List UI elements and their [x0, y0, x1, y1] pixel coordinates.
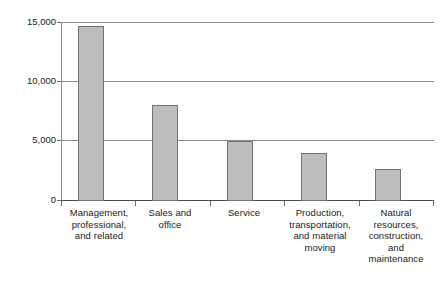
- category-label-line: and: [352, 242, 440, 254]
- category-label-natural-resources: Natural resources, construction, and mai…: [352, 207, 440, 265]
- category-label-line: Service: [207, 207, 281, 219]
- y-tick-mark-5000: [57, 140, 61, 141]
- category-label-line: resources,: [352, 219, 440, 231]
- bar-management-professional-and-related[interactable]: [78, 26, 104, 201]
- x-tick-mark: [135, 201, 136, 206]
- y-tick-mark-10000: [57, 81, 61, 82]
- bar-service[interactable]: [227, 141, 253, 201]
- x-tick-mark: [61, 201, 62, 206]
- x-tick-mark: [359, 201, 360, 206]
- x-tick-mark: [210, 201, 211, 206]
- bar-sales-and-office[interactable]: [152, 105, 178, 201]
- category-label-line: maintenance: [352, 253, 440, 265]
- y-axis-tick-label: 15,000: [0, 17, 56, 27]
- category-label-service: Service: [207, 207, 281, 219]
- y-axis-tick-label: 10,000: [0, 76, 56, 86]
- category-label-line: professional,: [55, 219, 143, 231]
- y-tick-text-5000: 5,000: [32, 134, 56, 145]
- gridline-10000: [61, 81, 434, 82]
- bar-natural-resources-construction-and-maintenance[interactable]: [375, 169, 401, 201]
- y-tick-text-0: 0: [51, 194, 56, 205]
- bar-chart-figure: 15,000 10,000 5,000 0 Management, profes…: [0, 0, 443, 283]
- category-label-line: Sales and: [133, 207, 207, 219]
- y-axis-line: [61, 22, 62, 200]
- y-tick-text-15000: 15,000: [27, 16, 56, 27]
- bar-production-transportation-and-material-moving[interactable]: [301, 153, 327, 201]
- y-axis-tick-label: 0: [0, 195, 56, 205]
- category-label-line: Management,: [55, 207, 143, 219]
- category-label-line: office: [133, 219, 207, 231]
- gridline-15000: [61, 22, 434, 23]
- category-label-management: Management, professional, and related: [55, 207, 143, 242]
- category-label-sales-and-office: Sales and office: [133, 207, 207, 230]
- category-label-line: construction,: [352, 230, 440, 242]
- x-tick-mark: [433, 201, 434, 206]
- x-tick-mark: [284, 201, 285, 206]
- category-label-line: and related: [55, 230, 143, 242]
- y-tick-text-10000: 10,000: [27, 75, 56, 86]
- y-tick-mark-15000: [57, 22, 61, 23]
- category-label-line: Natural: [352, 207, 440, 219]
- y-axis-tick-label: 5,000: [0, 135, 56, 145]
